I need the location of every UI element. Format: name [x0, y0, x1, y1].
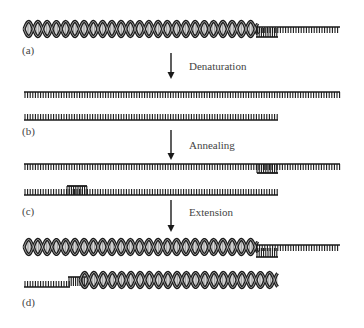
panel-d-extended-helices: [24, 240, 340, 288]
panel-label-b: (b): [22, 125, 35, 137]
arrow-annealing: [168, 130, 175, 160]
arrow-extension: [168, 200, 175, 232]
step-label-annealing: Annealing: [189, 139, 235, 151]
arrow-head: [168, 72, 175, 79]
panel-label-d: (d): [22, 296, 35, 308]
step-label-denaturation: Denaturation: [189, 60, 246, 72]
strand-bases: [25, 114, 277, 120]
new-helix-1: [24, 240, 258, 255]
strand-bases: [25, 164, 340, 170]
strand-bases: [257, 245, 338, 251]
arrow-head: [168, 225, 175, 232]
strand-bases: [25, 92, 340, 98]
strand-bases: [25, 281, 69, 287]
strand-bases: [25, 189, 277, 195]
panel-label-a: (a): [22, 44, 34, 56]
new-helix-2: [80, 273, 278, 288]
panel-label-c: (c): [22, 205, 34, 217]
template-helix: [24, 22, 258, 37]
primer-reverse: [257, 164, 278, 173]
arrow-head: [168, 153, 175, 160]
panel-c-annealed-primers: [24, 164, 340, 195]
separated-strand-lower: [24, 114, 278, 120]
strand-bases: [257, 27, 338, 33]
new-helix-2-lower-overhang: [24, 281, 70, 287]
panel-b-separated-strands: [24, 92, 340, 120]
annealing-strand-upper: [24, 164, 340, 170]
pcr-diagram: [0, 0, 364, 328]
step-arrows: [168, 53, 175, 232]
step-label-extension: Extension: [189, 206, 233, 218]
panel-a-template-helix: [24, 22, 340, 38]
arrow-denaturation: [168, 53, 175, 79]
annealing-strand-lower: [24, 189, 278, 195]
separated-strand-upper: [24, 92, 340, 98]
new-helix-1-upper-overhang: [256, 245, 340, 251]
template-upper-overhang: [256, 27, 340, 33]
